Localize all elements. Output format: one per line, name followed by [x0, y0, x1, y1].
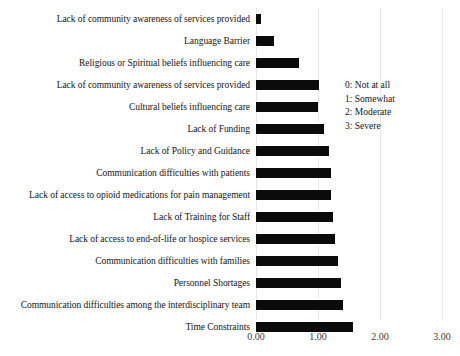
x-tick-label: 0.00 [236, 330, 276, 344]
category-label: Cultural beliefs influencing care [0, 96, 250, 118]
bar-row: Communication difficulties among the int… [0, 294, 460, 316]
x-tick-label: 2.00 [360, 330, 400, 344]
bar [256, 278, 341, 288]
bar [256, 80, 319, 90]
x-tick-label: 1.00 [298, 330, 338, 344]
bar-row: Language Barrier [0, 30, 460, 52]
category-label: Lack of Funding [0, 118, 250, 140]
legend-item: 3: Severe [345, 120, 395, 134]
bar [256, 212, 333, 222]
legend-item: 2: Moderate [345, 106, 395, 120]
category-label: Lack of access to opioid medications for… [0, 184, 250, 206]
category-label: Lack of community awareness of services … [0, 74, 250, 96]
bar [256, 168, 331, 178]
bar [256, 300, 343, 310]
bar-row: Communication difficulties with patients [0, 162, 460, 184]
category-label: Lack of Policy and Guidance [0, 140, 250, 162]
x-axis: 0.001.002.003.00 [0, 330, 460, 348]
bar [256, 146, 329, 156]
bar-row: Lack of Policy and Guidance [0, 140, 460, 162]
bottom-edge-artifact [4, 347, 134, 353]
bar [256, 102, 318, 112]
bar-row: Lack of community awareness of services … [0, 8, 460, 30]
category-label: Communication difficulties among the int… [0, 294, 250, 316]
horizontal-bar-chart: Lack of community awareness of services … [0, 0, 460, 356]
legend-item: 0: Not at all [345, 79, 395, 93]
category-label: Lack of access to end-of-life or hospice… [0, 228, 250, 250]
category-label: Language Barrier [0, 30, 250, 52]
category-label: Lack of Training for Staff [0, 206, 250, 228]
bar [256, 256, 338, 266]
bar-row: Communication difficulties with families [0, 250, 460, 272]
bar-row: Lack of access to end-of-life or hospice… [0, 228, 460, 250]
scale-legend: 0: Not at all1: Somewhat2: Moderate3: Se… [345, 79, 395, 133]
category-label: Lack of community awareness of services … [0, 8, 250, 30]
x-tick-label: 3.00 [422, 330, 460, 344]
bar-row: Religious or Spiritual beliefs influenci… [0, 52, 460, 74]
bar [256, 234, 335, 244]
bar [256, 14, 261, 24]
bar [256, 124, 324, 134]
category-label: Religious or Spiritual beliefs influenci… [0, 52, 250, 74]
bar-row: Lack of Training for Staff [0, 206, 460, 228]
bar [256, 190, 331, 200]
bar-row: Lack of access to opioid medications for… [0, 184, 460, 206]
bar [256, 58, 299, 68]
bar [256, 36, 274, 46]
category-label: Communication difficulties with patients [0, 162, 250, 184]
legend-item: 1: Somewhat [345, 93, 395, 107]
bar-row: Personnel Shortages [0, 272, 460, 294]
category-label: Communication difficulties with families [0, 250, 250, 272]
category-label: Personnel Shortages [0, 272, 250, 294]
